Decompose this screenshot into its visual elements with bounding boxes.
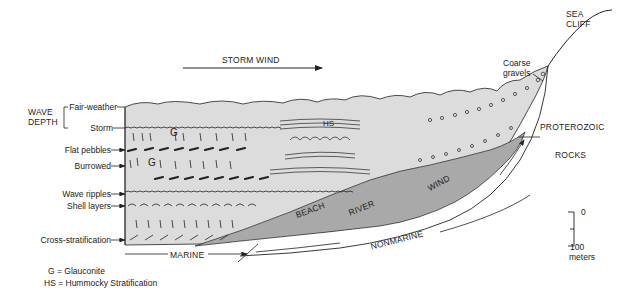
scale-unit-label: meters: [569, 252, 595, 262]
scale-bar: [568, 212, 574, 246]
shell-layers-label: Shell layers: [67, 201, 111, 211]
legend-glauconite: G = Glauconite: [48, 266, 105, 276]
nonmarine-line: [256, 243, 340, 252]
coarse-gravels-label-1: Coarse: [503, 58, 530, 68]
marine-label: MARINE: [170, 250, 204, 260]
proterozoic-label: PROTEROZOIC: [540, 122, 605, 132]
scale-bottom-label: 100: [570, 242, 584, 252]
wave-depth-label-1: WAVE: [28, 107, 53, 117]
sea-cliff-label-2: CLIFF: [566, 19, 591, 29]
wave-depth-label-2: DEPTH: [28, 117, 58, 127]
glauconite-marker-1: G: [170, 128, 178, 138]
sea-cliff-label-1: SEA: [566, 9, 584, 19]
flat-pebbles-label: Flat pebbles: [65, 145, 111, 155]
left-label-leaders: [111, 107, 125, 240]
storm-wind-label: STORM WIND: [222, 55, 280, 65]
coarse-gravels-label-2: gravels: [503, 68, 530, 78]
fair-weather-label: Fair-weather: [69, 102, 117, 112]
storm-label: Storm: [90, 123, 113, 133]
hummocky-marker: HS: [323, 119, 334, 129]
rocks-label: ROCKS: [555, 150, 586, 160]
facies-boundary-tick: [238, 244, 258, 262]
burrowed-label: Burrowed: [75, 161, 111, 171]
scale-top-label: 0: [581, 207, 586, 217]
wave-depth-bracket: [64, 107, 68, 128]
glauconite-marker-2: G: [148, 158, 156, 168]
legend-hummocky: HS = Hummocky Stratification: [44, 278, 157, 288]
wave-ripples-label: Wave ripples: [62, 189, 111, 199]
cross-stratification-label: Cross-stratification: [41, 235, 111, 245]
